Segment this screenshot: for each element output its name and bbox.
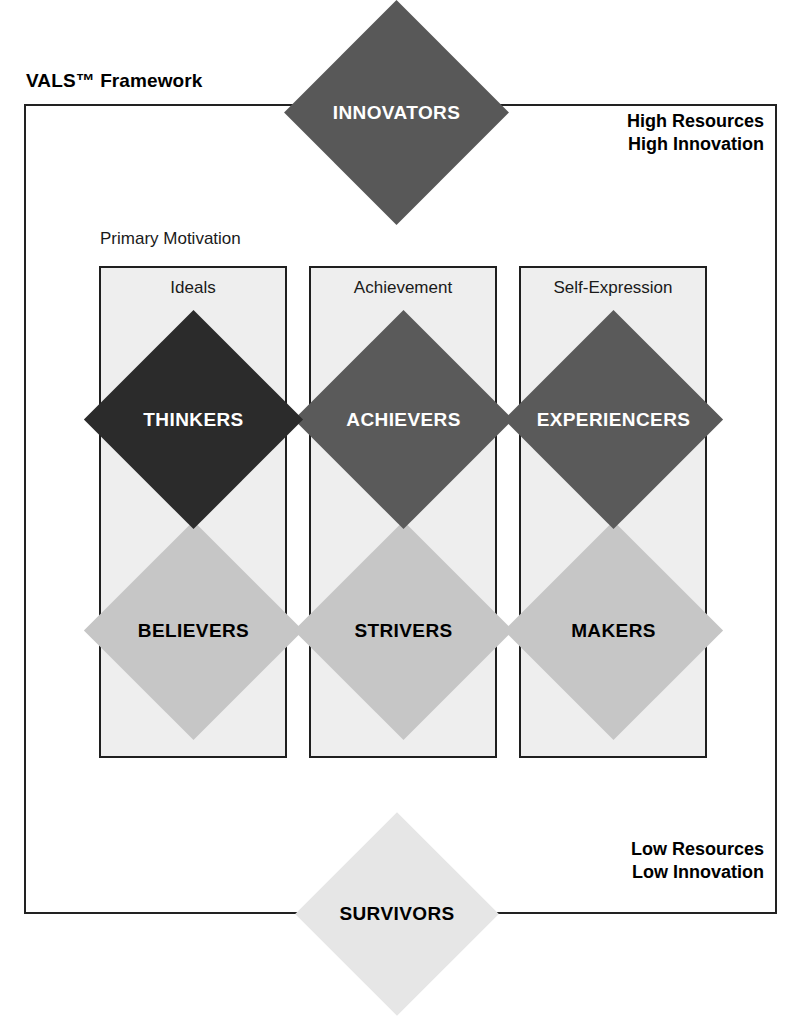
column-header-ideals: Ideals: [101, 278, 285, 298]
column-header-self-expression: Self-Expression: [521, 278, 705, 298]
segment-label-makers: MAKERS: [571, 620, 656, 642]
column-header-achievement: Achievement: [311, 278, 495, 298]
segment-label-strivers: STRIVERS: [354, 620, 452, 642]
segment-label-survivors: SURVIVORS: [339, 903, 454, 925]
segment-label-thinkers: THINKERS: [143, 409, 243, 431]
segment-label-achievers: ACHIEVERS: [346, 409, 460, 431]
segment-label-experiencers: EXPERIENCERS: [537, 409, 691, 431]
segment-label-innovators: INNOVATORS: [333, 102, 461, 124]
segment-label-believers: BELIEVERS: [138, 620, 249, 642]
vals-framework-diagram: VALS™ Framework High Resources High Inno…: [0, 0, 794, 1036]
